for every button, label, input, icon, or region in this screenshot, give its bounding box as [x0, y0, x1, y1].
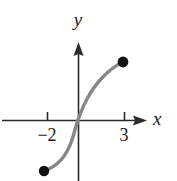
graph-figure: y x −2 3: [0, 0, 177, 181]
curve-endpoint-left: [39, 166, 49, 176]
y-axis-label: y: [66, 10, 90, 29]
y-axis-arrowhead: [74, 42, 84, 56]
x-tick-label-3: 3: [110, 126, 138, 144]
x-axis-arrowhead: [133, 116, 147, 126]
function-curve: [44, 62, 123, 171]
curve-endpoint-right: [118, 57, 129, 68]
x-axis-label: x: [153, 109, 161, 128]
x-tick-label-neg2: −2: [26, 126, 68, 144]
